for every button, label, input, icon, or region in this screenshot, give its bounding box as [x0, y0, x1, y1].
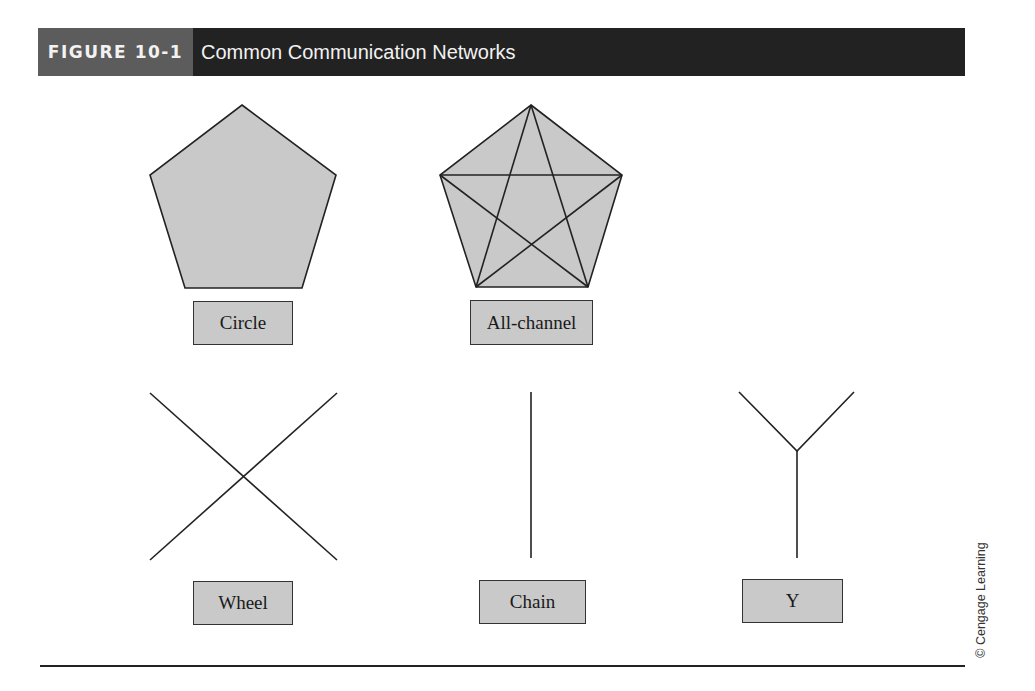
all-channel-label: All-channel	[470, 300, 593, 345]
wheel-label: Wheel	[193, 581, 293, 625]
copyright-credit: © Cengage Learning	[974, 542, 988, 658]
chain-label: Chain	[479, 580, 586, 624]
all-channel-network-shape	[440, 105, 622, 287]
y-network-shape	[739, 392, 854, 558]
y-label: Y	[742, 579, 843, 623]
circle-label: Circle	[193, 301, 293, 345]
circle-network-shape	[150, 105, 336, 288]
bottom-rule	[40, 665, 965, 667]
wheel-network-shape	[150, 393, 337, 560]
